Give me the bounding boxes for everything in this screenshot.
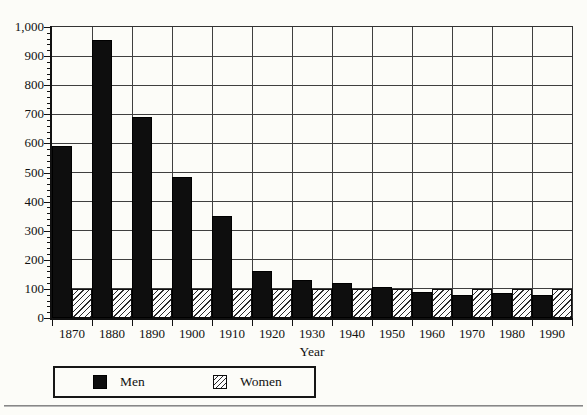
y-minor-tick: [47, 62, 50, 63]
y-axis-line: [50, 26, 52, 320]
y-tick-label: 100: [2, 282, 44, 296]
x-tick-label: 1930: [292, 327, 332, 341]
y-minor-tick: [47, 242, 50, 243]
x-tick: [172, 320, 173, 326]
bar-women-1950: [392, 289, 412, 318]
vgrid-line: [332, 27, 333, 318]
legend-women-label: Women: [240, 374, 282, 390]
y-minor-tick: [47, 138, 50, 139]
hgrid-line: [52, 85, 572, 86]
y-tick-label: 400: [2, 195, 44, 209]
y-tick-label: 500: [2, 166, 44, 180]
x-tick-label: 1880: [92, 327, 132, 341]
y-minor-tick: [47, 190, 50, 191]
bar-men-1980: [492, 293, 512, 318]
y-major-tick: [44, 27, 50, 28]
y-minor-tick: [47, 120, 50, 121]
bar-women-1940: [352, 289, 372, 318]
x-tick: [212, 320, 213, 326]
bar-men-1930: [292, 280, 312, 318]
hgrid-line: [52, 143, 572, 144]
x-tick-label: 1870: [52, 327, 92, 341]
y-major-tick: [44, 114, 50, 115]
hgrid-line: [52, 114, 572, 115]
bar-men-1890: [132, 117, 152, 318]
y-minor-tick: [47, 79, 50, 80]
x-axis-title: Year: [52, 344, 572, 360]
y-major-tick: [44, 143, 50, 144]
x-tick-label: 1970: [452, 327, 492, 341]
y-minor-tick: [47, 149, 50, 150]
y-minor-tick: [47, 167, 50, 168]
hgrid-line: [52, 259, 572, 260]
page-rule: [4, 405, 583, 407]
x-tick: [572, 320, 573, 326]
y-minor-tick: [47, 283, 50, 284]
y-minor-tick: [47, 266, 50, 267]
y-major-tick: [44, 260, 50, 261]
y-tick-label: 700: [2, 107, 44, 121]
vgrid-line: [452, 27, 453, 318]
plot-area: [52, 27, 572, 318]
y-minor-tick: [47, 312, 50, 313]
bar-women-1930: [312, 289, 332, 318]
x-tick-label: 1980: [492, 327, 532, 341]
bar-men-1960: [412, 292, 432, 318]
bar-women-1960: [432, 289, 452, 318]
y-minor-tick: [47, 39, 50, 40]
y-tick-label: 900: [2, 49, 44, 63]
y-tick-label: 1,000: [2, 20, 44, 34]
x-tick: [452, 320, 453, 326]
y-minor-tick: [47, 213, 50, 214]
x-tick-label: 1890: [132, 327, 172, 341]
y-minor-tick: [47, 237, 50, 238]
x-tick: [292, 320, 293, 326]
bar-men-1910: [212, 216, 232, 318]
legend-men-swatch: [93, 375, 107, 389]
y-major-tick: [44, 85, 50, 86]
bar-men-1950: [372, 287, 392, 318]
y-tick-label: 0: [2, 311, 44, 325]
vgrid-line: [372, 27, 373, 318]
bar-women-1900: [192, 289, 212, 318]
x-tick-label: 1940: [332, 327, 372, 341]
y-minor-tick: [47, 196, 50, 197]
bar-women-1970: [472, 289, 492, 318]
bar-men-1900: [172, 177, 192, 318]
bar-women-1920: [272, 289, 292, 318]
y-minor-tick: [47, 44, 50, 45]
x-tick-label: 1960: [412, 327, 452, 341]
x-tick-label: 1920: [252, 327, 292, 341]
bar-men-1940: [332, 283, 352, 318]
y-major-tick: [44, 56, 50, 57]
y-minor-tick: [47, 74, 50, 75]
y-minor-tick: [47, 161, 50, 162]
x-tick-label: 1900: [172, 327, 212, 341]
bar-men-1920: [252, 271, 272, 318]
y-minor-tick: [47, 178, 50, 179]
y-minor-tick: [47, 295, 50, 296]
y-major-tick: [44, 173, 50, 174]
x-tick: [52, 320, 53, 326]
y-major-tick: [44, 318, 50, 319]
y-tick-label: 300: [2, 224, 44, 238]
y-minor-tick: [47, 50, 50, 51]
y-minor-tick: [47, 68, 50, 69]
y-minor-tick: [47, 271, 50, 272]
x-tick: [132, 320, 133, 326]
x-tick: [412, 320, 413, 326]
y-minor-tick: [47, 306, 50, 307]
vgrid-line: [292, 27, 293, 318]
y-major-tick: [44, 289, 50, 290]
y-minor-tick: [47, 254, 50, 255]
x-tick: [92, 320, 93, 326]
plot-frame-top: [52, 26, 572, 27]
bar-men-1870: [52, 146, 72, 318]
plot-frame-right: [572, 26, 573, 319]
y-minor-tick: [47, 219, 50, 220]
bar-women-1980: [512, 289, 532, 318]
bar-women-1990: [552, 289, 572, 318]
y-tick-label: 800: [2, 78, 44, 92]
y-minor-tick: [47, 277, 50, 278]
vgrid-line: [412, 27, 413, 318]
